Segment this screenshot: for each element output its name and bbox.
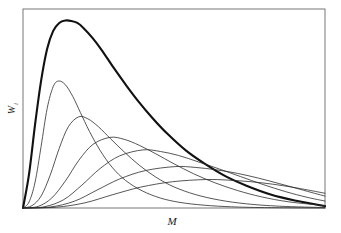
distribution-plot: M W i: [0, 0, 341, 233]
x-axis-label: M: [166, 215, 177, 227]
figure-container: M W i: [0, 0, 341, 233]
